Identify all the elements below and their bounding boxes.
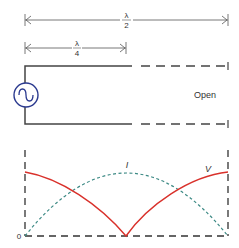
origin-label: 0 xyxy=(17,232,22,241)
quarter-wave-label-denominator: 4 xyxy=(75,49,80,58)
half-wave-label-denominator: 2 xyxy=(124,21,129,30)
open-termination-label: Open xyxy=(194,90,216,100)
quarter-wave-label-numerator: λ xyxy=(75,39,79,48)
half-wave-label-numerator: λ xyxy=(125,11,129,20)
bottom-conductor xyxy=(25,107,228,128)
current-label: I xyxy=(126,160,129,170)
voltage-label: V xyxy=(205,164,212,174)
top-conductor xyxy=(25,62,228,83)
ac-source-icon xyxy=(14,83,38,107)
transmission-line-diagram: λ 2 λ 4 Open I V 0 xyxy=(0,0,239,248)
current-curve xyxy=(25,173,228,236)
